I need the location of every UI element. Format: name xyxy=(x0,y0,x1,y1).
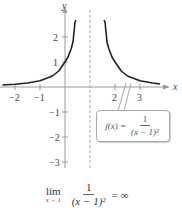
limit-operator: lim x → 1 xyxy=(46,185,61,204)
x-axis-arrow-icon xyxy=(163,85,170,90)
fraction-numerator: 1 xyxy=(140,114,151,126)
function-fraction: 1 (x − 1)² xyxy=(129,114,161,138)
limit-numerator: 1 xyxy=(83,181,95,195)
limit-result: = ∞ xyxy=(112,189,129,201)
y-tick-label: −3 xyxy=(49,157,60,168)
limit-word: lim xyxy=(46,185,61,197)
x-tick-label: 2 xyxy=(112,92,117,103)
curve-right-branch xyxy=(104,20,160,84)
limit-subscript: x → 1 xyxy=(46,197,61,204)
graph: −2 −1 2 3 2 1 −1 −2 −3 x y xyxy=(0,0,182,211)
y-tick-label: −2 xyxy=(49,132,60,143)
y-tick-label: 2 xyxy=(53,32,58,43)
limit-fraction: 1 (x − 1)² xyxy=(70,181,108,208)
y-axis-label: y xyxy=(61,0,67,11)
x-tick-label: −2 xyxy=(9,92,20,103)
limit-expression: lim x → 1 1 (x − 1)² = ∞ xyxy=(46,181,128,208)
limit-denominator: (x − 1)² xyxy=(70,195,108,208)
function-callout: f(x) = 1 (x − 1)² xyxy=(96,110,170,142)
x-tick-label: 3 xyxy=(137,92,142,103)
x-tick-label: −1 xyxy=(34,92,45,103)
fraction-denominator: (x − 1)² xyxy=(129,126,161,138)
function-lhs: f(x) = xyxy=(105,121,126,131)
x-axis-label: x xyxy=(172,81,178,92)
y-tick-label: −1 xyxy=(49,107,60,118)
y-tick-label: 1 xyxy=(53,57,58,68)
